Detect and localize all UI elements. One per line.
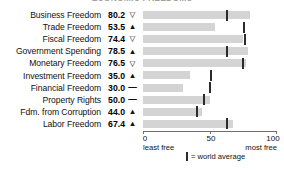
trend-flat-icon: — — [127, 82, 138, 94]
chart-row: Monetary Freedom76.5▽ — [0, 57, 284, 69]
chart-row: Financial Freedom30.0— — [0, 82, 284, 94]
world-average-marker — [203, 94, 205, 105]
world-average-marker — [243, 22, 245, 33]
x-axis-tick-label-50: 50 — [207, 134, 216, 143]
trend-up-icon: ▲ — [127, 45, 138, 57]
plot-area — [143, 45, 277, 57]
trend-down-icon: ▽ — [127, 9, 138, 21]
category-label: Financial Freedom — [0, 82, 101, 94]
axis-label-least-free: least free — [143, 143, 174, 152]
chart-row: Government Spending78.5▲ — [0, 45, 284, 57]
category-label: Fiscal Freedom — [0, 33, 101, 45]
legend: = world average — [186, 152, 245, 161]
value-label: 78.5 — [101, 45, 125, 57]
value-label: 35.0 — [101, 69, 125, 81]
category-label: Investment Freedom — [0, 69, 101, 81]
category-label: Monetary Freedom — [0, 57, 101, 69]
chart-row: Trade Freedom53.5▲ — [0, 21, 284, 33]
value-label: 76.5 — [101, 57, 125, 69]
value-label: 80.2 — [101, 9, 125, 21]
value-label: 67.4 — [101, 118, 125, 130]
chart-row: Labor Freedom67.4▲ — [0, 118, 284, 130]
value-label: 50.0 — [101, 94, 125, 106]
chart-rows: Business Freedom80.2▽Trade Freedom53.5▲F… — [0, 9, 284, 130]
chart-row: Property Rights50.0— — [0, 94, 284, 106]
trend-up-icon: ▲ — [127, 118, 138, 130]
value-label: 44.0 — [101, 106, 125, 118]
trend-flat-icon: — — [127, 94, 138, 106]
value-bar — [143, 120, 233, 128]
category-label: Labor Freedom — [0, 118, 101, 130]
value-bar — [143, 108, 202, 116]
plot-area — [143, 94, 277, 106]
x-axis-tick-label-100: 100 — [266, 134, 279, 143]
world-average-marker — [226, 46, 228, 57]
plot-area — [143, 69, 277, 81]
plot-area — [143, 82, 277, 94]
category-label: Fdm. from Corruption — [0, 106, 101, 118]
plot-area — [143, 33, 277, 45]
trend-up-icon: ▲ — [127, 69, 138, 81]
world-average-marker — [196, 106, 198, 117]
axis-label-most-free: most free — [245, 143, 277, 152]
legend-label: = world average — [191, 152, 245, 161]
value-bar — [143, 71, 190, 79]
value-label: 53.5 — [101, 21, 125, 33]
chart-row: Business Freedom80.2▽ — [0, 9, 284, 21]
value-bar — [143, 11, 250, 19]
plot-area — [143, 118, 277, 130]
trend-up-icon: ▲ — [127, 21, 138, 33]
world-average-marker — [226, 118, 228, 129]
value-label: 74.4 — [101, 33, 125, 45]
plot-area — [143, 9, 277, 21]
world-average-marker — [226, 10, 228, 21]
chart-row: Investment Freedom35.0▲ — [0, 69, 284, 81]
category-label: Business Freedom — [0, 9, 101, 21]
plot-area — [143, 21, 277, 33]
value-label: 30.0 — [101, 82, 125, 94]
economic-freedoms-chart: ECONOMIC FREEDOMS Business Freedom80.2▽T… — [0, 0, 284, 170]
plot-area — [143, 106, 277, 118]
category-label: Government Spending — [0, 45, 101, 57]
category-label: Trade Freedom — [0, 21, 101, 33]
plot-area — [143, 57, 277, 69]
x-axis-tick-label-0: 0 — [143, 134, 147, 143]
value-bar — [143, 59, 246, 67]
trend-down-icon: ▽ — [127, 33, 138, 45]
value-bar — [143, 23, 215, 31]
category-label: Property Rights — [0, 94, 101, 106]
world-average-marker — [210, 70, 212, 81]
value-bar — [143, 84, 183, 92]
world-average-marker — [209, 82, 211, 93]
trend-up-icon: ▲ — [127, 106, 138, 118]
world-average-marker — [244, 34, 246, 45]
trend-down-icon: ▽ — [127, 57, 138, 69]
chart-row: Fiscal Freedom74.4▽ — [0, 33, 284, 45]
value-bar — [143, 47, 248, 55]
chart-title: ECONOMIC FREEDOMS — [0, 0, 284, 2]
value-bar — [143, 35, 243, 43]
world-average-marker — [242, 58, 244, 69]
value-bar — [143, 96, 210, 104]
world-average-marker-icon — [186, 152, 188, 161]
chart-row: Fdm. from Corruption44.0▲ — [0, 106, 284, 118]
